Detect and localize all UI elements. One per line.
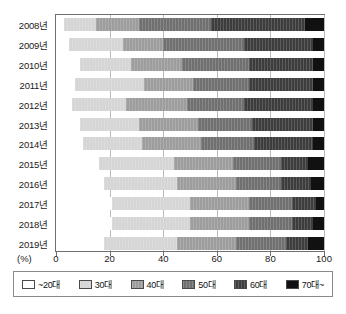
- bar-row: [56, 177, 324, 190]
- y-axis-label: 2009년: [19, 38, 48, 52]
- bar-segment: [64, 18, 96, 31]
- bar-segment: [190, 217, 249, 230]
- bar-segment: [96, 18, 139, 31]
- bar-segment: [83, 137, 142, 150]
- bar-segment: [123, 38, 163, 51]
- bar-row: [56, 78, 324, 91]
- bar-row: [56, 98, 324, 111]
- bar-segment: [254, 137, 313, 150]
- bar-segment: [142, 137, 201, 150]
- bar-segment: [305, 18, 324, 31]
- bar-segment: [56, 118, 80, 131]
- bar-segment: [249, 58, 313, 71]
- y-axis-label: 2016년: [19, 177, 48, 191]
- bar-segment: [56, 157, 99, 170]
- bar-segment: [236, 237, 287, 250]
- bar-segment: [56, 237, 104, 250]
- bar-segment: [198, 118, 252, 131]
- y-axis-label: 2008년: [19, 18, 48, 32]
- bar-segment: [177, 237, 236, 250]
- bar-segment: [56, 38, 69, 51]
- bar-segment: [252, 118, 314, 131]
- bar-segment: [190, 197, 249, 210]
- bar-segment: [292, 197, 316, 210]
- legend-swatch-icon: [22, 280, 35, 289]
- legend-label: 30대: [95, 278, 112, 291]
- chart-legend: ~20대30대40대50대60대70대~: [13, 271, 333, 297]
- bar-segment: [139, 118, 198, 131]
- bar-segment: [126, 98, 188, 111]
- bar-segment: [308, 237, 324, 250]
- y-axis-label: 2014년: [19, 137, 48, 151]
- bar-segment: [144, 78, 192, 91]
- bar-segment: [177, 177, 236, 190]
- legend-item: 70대~: [286, 278, 324, 291]
- legend-swatch-icon: [182, 280, 195, 289]
- legend-label: 60대: [250, 278, 267, 291]
- y-axis-label: 2017년: [19, 197, 48, 211]
- bar-segment: [313, 98, 324, 111]
- bar-segment: [80, 58, 131, 71]
- bar-segment: [313, 217, 324, 230]
- bar-segment: [99, 157, 174, 170]
- y-axis-label: 2019년: [19, 237, 48, 251]
- bar-segment: [286, 237, 307, 250]
- bar-segment: [131, 58, 182, 71]
- bar-segment: [163, 38, 243, 51]
- bar-segment: [313, 78, 324, 91]
- y-axis-category-labels: 2008년2009년2010년2011년2012년2013년2014년2015년…: [0, 14, 52, 252]
- legend-item: 40대: [131, 278, 164, 291]
- bar-rows: [56, 15, 324, 251]
- bar-row: [56, 38, 324, 51]
- bar-segment: [139, 18, 211, 31]
- y-axis-label: 2010년: [19, 58, 48, 72]
- y-axis-label: 2012년: [19, 98, 48, 112]
- bar-segment: [104, 237, 176, 250]
- bar-segment: [104, 177, 176, 190]
- bar-segment: [313, 137, 324, 150]
- legend-swatch-icon: [79, 280, 92, 289]
- legend-swatch-icon: [234, 280, 247, 289]
- legend-label: ~20대: [38, 278, 60, 291]
- legend-item: ~20대: [22, 278, 60, 291]
- bar-row: [56, 197, 324, 210]
- bar-row: [56, 18, 324, 31]
- bar-row: [56, 217, 324, 230]
- x-axis-tick: [56, 252, 57, 256]
- bar-segment: [233, 157, 281, 170]
- bar-segment: [313, 38, 324, 51]
- bar-segment: [292, 217, 313, 230]
- legend-item: 50대: [182, 278, 215, 291]
- bar-segment: [244, 38, 314, 51]
- bar-segment: [249, 78, 313, 91]
- bar-segment: [193, 78, 249, 91]
- bar-row: [56, 237, 324, 250]
- x-axis-tick-labels: 020406080100: [0, 253, 346, 269]
- bar-segment: [182, 58, 249, 71]
- bar-segment: [311, 177, 324, 190]
- x-axis-tick: [324, 252, 325, 256]
- legend-label: 40대: [147, 278, 164, 291]
- legend-swatch-icon: [286, 280, 299, 289]
- bar-segment: [56, 78, 75, 91]
- stacked-bar-chart: 2008년2009년2010년2011년2012년2013년2014년2015년…: [0, 0, 346, 314]
- bar-segment: [69, 38, 123, 51]
- bar-segment: [56, 217, 112, 230]
- legend-label: 70대~: [302, 278, 324, 291]
- bar-segment: [72, 98, 126, 111]
- bar-segment: [56, 177, 104, 190]
- y-axis-label: 2011년: [20, 78, 48, 92]
- bar-segment: [316, 197, 324, 210]
- x-axis-tick: [110, 252, 111, 256]
- bar-segment: [80, 118, 139, 131]
- y-axis-label: 2015년: [19, 157, 48, 171]
- bar-segment: [56, 197, 112, 210]
- bar-row: [56, 157, 324, 170]
- bar-row: [56, 58, 324, 71]
- bar-row: [56, 137, 324, 150]
- legend-item: 60대: [234, 278, 267, 291]
- bar-segment: [249, 217, 292, 230]
- bar-segment: [281, 177, 310, 190]
- legend-label: 50대: [198, 278, 215, 291]
- bar-segment: [211, 18, 305, 31]
